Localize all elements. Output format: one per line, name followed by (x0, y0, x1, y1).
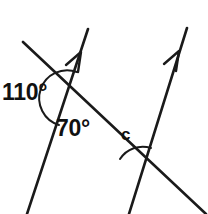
angle-label-70: 70° (56, 117, 90, 140)
transversal-line (23, 42, 206, 214)
angle-label-c: c (121, 126, 130, 143)
angle-label-110: 110° (2, 81, 47, 104)
parallel-marker-arrow-right (164, 51, 179, 71)
geometry-figure: 110° 70° c (0, 0, 208, 214)
geometry-canvas (0, 0, 208, 214)
